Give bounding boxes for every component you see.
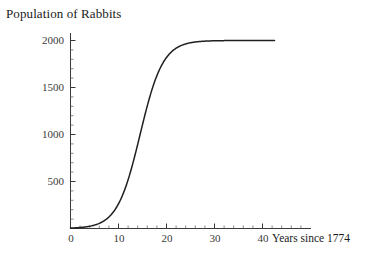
x-tick-label-20: 20 bbox=[155, 232, 179, 244]
y-tick-label-1000: 1000 bbox=[20, 128, 64, 140]
x-axis-label: Years since 1774 bbox=[272, 232, 350, 245]
population-curve bbox=[71, 41, 275, 229]
chart-screenshot: Population of Rabbits bbox=[0, 0, 380, 272]
x-tick-label-30: 30 bbox=[203, 232, 227, 244]
y-tick-label-2000: 2000 bbox=[20, 34, 64, 46]
y-axis-major-ticks bbox=[71, 41, 76, 182]
y-tick-label-500: 500 bbox=[20, 175, 64, 187]
x-tick-label-0: 0 bbox=[59, 232, 83, 244]
x-tick-label-10: 10 bbox=[107, 232, 131, 244]
y-tick-label-1500: 1500 bbox=[20, 81, 64, 93]
